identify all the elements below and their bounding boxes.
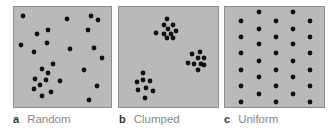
individual-dot (35, 32, 40, 37)
individual-dot (257, 59, 262, 64)
panel-random (13, 6, 112, 108)
individual-dot (86, 28, 91, 33)
individual-dot (190, 52, 195, 57)
individual-dot (135, 80, 140, 85)
individual-dot (96, 18, 101, 23)
individual-dot (171, 36, 176, 41)
individual-dot (49, 90, 54, 95)
caption-clumped: bClumped (119, 113, 180, 125)
individual-dot (165, 36, 170, 41)
caption-label: Random (27, 113, 70, 125)
individual-dot (196, 68, 201, 73)
individual-dot (151, 89, 156, 94)
individual-dot (143, 96, 148, 101)
panel-clumped (118, 6, 219, 108)
individual-dot (308, 84, 313, 89)
individual-dot (51, 62, 56, 67)
individual-dot (274, 35, 279, 40)
individual-dot (308, 19, 313, 24)
individual-dot (308, 35, 313, 40)
caption-random: aRandom (13, 113, 71, 125)
individual-dot (274, 100, 279, 105)
individual-dot (291, 92, 296, 97)
individual-dot (257, 42, 262, 47)
individual-dot (162, 23, 167, 28)
individual-dot (58, 79, 63, 84)
caption-letter: c (224, 113, 230, 125)
individual-dot (202, 56, 207, 61)
individual-dot (202, 63, 207, 68)
individual-dot (141, 71, 146, 76)
caption-letter: b (119, 113, 126, 125)
individual-dot (291, 27, 296, 32)
individual-dot (239, 100, 244, 105)
panel-uniform (224, 6, 325, 108)
individual-dot (239, 68, 244, 73)
individual-dot (144, 86, 149, 91)
individual-dot (136, 88, 141, 93)
individual-dot (198, 50, 203, 55)
individual-dot (148, 79, 153, 84)
individual-dot (165, 17, 170, 22)
individual-dot (257, 75, 262, 80)
individual-dot (239, 19, 244, 24)
individual-dot (32, 50, 37, 55)
individual-dot (82, 68, 87, 73)
individual-dot (308, 51, 313, 56)
individual-dot (46, 71, 51, 76)
individual-dot (38, 83, 43, 88)
individual-dot (46, 28, 51, 33)
individual-dot (40, 94, 45, 99)
individual-dot (291, 10, 296, 15)
individual-dot (87, 98, 92, 103)
individual-dot (68, 47, 73, 52)
individual-dot (308, 68, 313, 73)
individual-dot (239, 35, 244, 40)
caption-letter: a (13, 113, 19, 125)
individual-dot (257, 92, 262, 97)
individual-dot (239, 51, 244, 56)
individual-dot (33, 77, 38, 82)
caption-label: Clumped (134, 113, 180, 125)
individual-dot (65, 17, 70, 22)
individual-dot (239, 84, 244, 89)
individual-dot (257, 27, 262, 32)
individual-dot (274, 19, 279, 24)
individual-dot (45, 41, 50, 46)
individual-dot (174, 29, 179, 34)
individual-dot (40, 67, 45, 72)
individual-dot (92, 46, 97, 51)
individual-dot (291, 75, 296, 80)
individual-dot (100, 56, 105, 61)
individual-dot (89, 14, 94, 19)
individual-dot (274, 84, 279, 89)
individual-dot (141, 78, 146, 83)
individual-dot (21, 14, 26, 19)
individual-dot (257, 10, 262, 15)
individual-dot (19, 43, 24, 48)
individual-dot (95, 84, 100, 89)
individual-dot (192, 62, 197, 67)
individual-dot (32, 87, 37, 92)
caption-uniform: cUniform (224, 113, 278, 125)
individual-dot (186, 61, 191, 66)
individual-dot (291, 42, 296, 47)
individual-dot (154, 31, 159, 36)
individual-dot (274, 68, 279, 73)
individual-dot (166, 27, 171, 32)
individual-dot (274, 51, 279, 56)
individual-dot (171, 23, 176, 28)
individual-dot (162, 32, 167, 37)
individual-dot (291, 59, 296, 64)
individual-dot (308, 100, 313, 105)
individual-dot (44, 78, 49, 83)
caption-label: Uniform (238, 113, 278, 125)
individual-dot (196, 56, 201, 61)
